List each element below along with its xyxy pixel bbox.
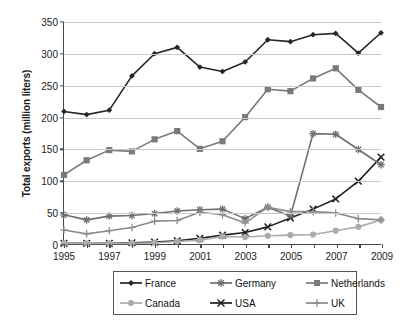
x-axis-tick-label: 2009 — [371, 251, 393, 262]
data-point-circle-marker — [333, 228, 339, 234]
series-netherlands — [61, 65, 384, 178]
x-axis-tick-mark — [200, 244, 201, 248]
plot-area: 0501001502002503003501995199719992001200… — [63, 22, 381, 245]
data-point-circle-marker — [287, 232, 293, 238]
x-axis-tick-mark — [314, 244, 315, 248]
legend-label: UK — [331, 298, 345, 309]
data-point-square-marker — [84, 157, 90, 163]
legend-marker-plus-icon — [305, 297, 329, 309]
data-point-circle-marker — [355, 224, 361, 230]
data-point-plus-marker — [60, 226, 68, 234]
x-axis-tick-mark — [64, 244, 65, 248]
series-layer — [64, 22, 381, 244]
data-point-square-marker — [265, 86, 271, 92]
y-axis-tick-mark — [60, 21, 64, 22]
x-axis-tick-label: 2003 — [235, 251, 257, 262]
legend-label: Canada — [145, 298, 180, 309]
data-point-plus-marker — [106, 227, 114, 235]
gridline — [64, 22, 381, 23]
data-point-square-marker — [61, 172, 67, 178]
x-axis-tick-label: 1995 — [53, 251, 75, 262]
x-axis-tick-label: 1997 — [98, 251, 120, 262]
data-point-circle-marker — [128, 300, 134, 306]
data-point-square-marker — [310, 75, 316, 81]
x-axis-tick-mark — [382, 244, 383, 248]
gridline — [64, 149, 381, 150]
data-point-plus-marker — [313, 299, 321, 307]
legend-marker-x-icon — [209, 297, 233, 309]
legend-marker-square-icon — [305, 277, 329, 289]
data-point-x-marker — [332, 196, 339, 203]
y-axis-title: Total exports (million liters) — [21, 34, 32, 234]
legend-marker-circle-icon — [119, 297, 143, 309]
y-axis-tick-label: 350 — [41, 17, 58, 28]
line-chart: Total exports (million liters) 050100150… — [0, 0, 404, 321]
y-axis-tick-label: 0 — [52, 240, 58, 251]
legend-item-netherlands[interactable]: Netherlands — [305, 277, 363, 289]
x-axis-tick-mark — [223, 244, 224, 248]
data-point-diamond-marker — [61, 109, 67, 115]
x-axis-tick-mark — [337, 244, 338, 248]
data-point-square-marker — [174, 128, 180, 134]
x-axis-tick-label: 1999 — [144, 251, 166, 262]
y-axis-tick-mark — [60, 53, 64, 54]
y-axis-tick-label: 50 — [47, 208, 58, 219]
data-point-plus-marker — [309, 208, 317, 216]
data-point-plus-marker — [128, 224, 136, 232]
legend-item-canada[interactable]: Canada — [119, 297, 209, 309]
data-point-star-marker — [217, 279, 225, 287]
y-axis-tick-label: 300 — [41, 48, 58, 59]
data-point-plus-marker — [355, 215, 363, 223]
legend-item-uk[interactable]: UK — [305, 297, 363, 309]
data-point-square-marker — [151, 136, 157, 142]
legend-label: Germany — [235, 278, 276, 289]
x-axis-tick-label: 2001 — [189, 251, 211, 262]
legend-marker-star-icon — [209, 277, 233, 289]
y-axis-tick-mark — [60, 212, 64, 213]
series-france — [61, 30, 384, 118]
data-point-x-marker — [378, 154, 385, 161]
data-point-star-marker — [377, 161, 385, 169]
chart-legend: FranceGermanyNetherlandsCanadaUSAUK — [113, 271, 357, 315]
data-point-circle-marker — [310, 231, 316, 237]
legend-label: USA — [235, 298, 256, 309]
x-axis-tick-mark — [87, 244, 88, 248]
y-axis-tick-label: 200 — [41, 112, 58, 123]
x-axis-tick-mark — [268, 244, 269, 248]
data-point-star-marker — [83, 216, 91, 224]
legend-marker-diamond-icon — [119, 277, 143, 289]
gridline — [64, 181, 381, 182]
legend-item-usa[interactable]: USA — [209, 297, 305, 309]
data-point-plus-marker — [377, 216, 385, 224]
data-point-circle-marker — [197, 237, 203, 243]
gridline — [64, 118, 381, 119]
x-axis-tick-label: 2005 — [280, 251, 302, 262]
data-point-plus-marker — [83, 230, 91, 238]
data-point-circle-marker — [219, 233, 225, 239]
x-axis-tick-label: 2007 — [325, 251, 347, 262]
data-point-square-marker — [378, 104, 384, 110]
legend-item-germany[interactable]: Germany — [209, 277, 305, 289]
y-axis-tick-mark — [60, 117, 64, 118]
data-point-square-marker — [287, 88, 293, 94]
gridline — [64, 86, 381, 87]
legend-item-france[interactable]: France — [119, 277, 209, 289]
x-axis-tick-mark — [178, 244, 179, 248]
data-point-plus-marker — [173, 217, 181, 225]
data-point-plus-marker — [151, 217, 159, 225]
data-point-diamond-marker — [128, 280, 134, 286]
y-axis-tick-label: 250 — [41, 80, 58, 91]
x-axis-tick-mark — [246, 244, 247, 248]
y-axis-tick-label: 150 — [41, 144, 58, 155]
x-axis-tick-mark — [109, 244, 110, 248]
data-point-star-marker — [309, 130, 317, 138]
data-point-circle-marker — [242, 234, 248, 240]
gridline — [64, 54, 381, 55]
y-axis-tick-mark — [60, 149, 64, 150]
data-point-star-marker — [332, 131, 340, 139]
legend-label: Netherlands — [331, 278, 385, 289]
x-axis-tick-mark — [291, 244, 292, 248]
x-axis-tick-mark — [132, 244, 133, 248]
legend-label: France — [145, 278, 176, 289]
data-point-diamond-marker — [288, 39, 294, 45]
